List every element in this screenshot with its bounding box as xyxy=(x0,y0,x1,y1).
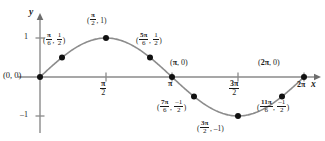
point-label-3pi-over-2: (3π2, –1) xyxy=(197,120,224,135)
comma: , xyxy=(52,36,56,45)
point-label-7pi-over-6: (7π6, –12) xyxy=(157,99,186,114)
half-numerator: 1 xyxy=(153,32,159,39)
point-label-pi-over-6: (π6, 12) xyxy=(43,32,65,47)
point-label-pi-over-2: (π2, 1) xyxy=(87,12,106,27)
comma: , xyxy=(273,103,277,112)
data-point xyxy=(191,94,197,100)
paren-close: ) xyxy=(104,16,107,25)
neghalf-denominator: 2 xyxy=(174,106,183,114)
tick-3pi2-denominator: 2 xyxy=(229,88,239,97)
data-point xyxy=(103,35,109,41)
sevenpi6-denominator: 6 xyxy=(160,106,169,114)
x-axis-label: x xyxy=(311,80,316,90)
origin-point-label: (0, 0) xyxy=(3,71,21,80)
paren-close: ) xyxy=(287,103,290,112)
data-point xyxy=(147,55,153,61)
threepi2-denominator: 2 xyxy=(200,127,209,135)
point-label-5pi-over-6: (5π6, 12) xyxy=(136,32,162,47)
tick-pi2-denominator: 2 xyxy=(100,88,106,97)
point-label-11pi-over-6: (11π6, –12) xyxy=(257,99,289,114)
zero-rest: , 0) xyxy=(177,58,188,67)
fivepi6-denominator: 6 xyxy=(139,39,148,47)
half-denominator: 2 xyxy=(153,39,159,47)
y-axis-label: y xyxy=(29,8,33,18)
x-tick-label-pi: π xyxy=(168,80,172,88)
data-point xyxy=(235,113,241,119)
pi6-denominator: 6 xyxy=(46,39,52,47)
pi6-numerator: π xyxy=(46,32,52,39)
neghalf-numerator: –1 xyxy=(174,99,183,106)
tick-pi2-numerator: π xyxy=(100,80,106,88)
half-denominator: 2 xyxy=(57,39,63,47)
two-pi-symbol: 2π xyxy=(261,58,269,67)
x-tick-label-3pi-over-2: 3π 2 xyxy=(229,80,239,98)
zero-rest: , 0) xyxy=(269,58,280,67)
neghalf-numerator: –1 xyxy=(277,99,286,106)
data-point xyxy=(37,74,43,80)
fivepi6-numerator: 5π xyxy=(139,32,148,39)
sevenpi6-numerator: 7π xyxy=(160,99,169,106)
threepi2-numerator: 3π xyxy=(200,120,209,127)
paren-close: ) xyxy=(184,103,187,112)
y-tick-label-1: 1 xyxy=(24,33,28,41)
point-label-pi: (π, 0) xyxy=(170,59,188,67)
y-tick-label-neg1: –1 xyxy=(20,111,28,119)
y-axis-arrow xyxy=(37,13,44,20)
point-label-2pi: (2π, 0) xyxy=(258,59,280,67)
pi2-numerator: π xyxy=(90,12,96,19)
elevenpi6-denominator: 6 xyxy=(260,106,273,114)
neghalf-denominator: 2 xyxy=(277,106,286,114)
comma: , xyxy=(170,103,174,112)
x-tick-label-pi-over-2: π 2 xyxy=(100,80,106,98)
elevenpi6-numerator: 11π xyxy=(260,99,273,106)
paren-close: ) xyxy=(63,36,66,45)
comma: , xyxy=(149,36,153,45)
data-point xyxy=(59,55,65,61)
paren-close: ) xyxy=(221,124,224,133)
tick-3pi2-numerator: 3π xyxy=(229,80,239,88)
sine-graph-figure: y x (0, 0) 1 –1 π 2 π 3π 2 2π (π6, 12) (… xyxy=(0,0,325,141)
half-numerator: 1 xyxy=(57,32,63,39)
pi2-denominator: 2 xyxy=(90,19,96,27)
x-tick-label-2pi: 2π xyxy=(297,81,305,89)
paren-close: ) xyxy=(159,36,162,45)
sine-curve-plot xyxy=(0,0,325,141)
